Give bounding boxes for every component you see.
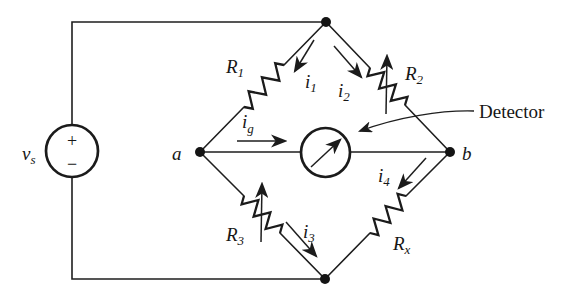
resistor-r2-label: R2 xyxy=(404,63,424,87)
current-arrow-i4 xyxy=(399,158,426,188)
wire-a-to-r3 xyxy=(200,152,244,196)
node-b-label: b xyxy=(462,143,472,164)
resistor-r1-zigzag xyxy=(244,63,284,108)
node-a xyxy=(195,147,205,157)
node-top xyxy=(321,17,331,27)
resistor-r3-label: R3 xyxy=(225,224,245,248)
voltage-source-label: vs xyxy=(22,143,36,167)
minus-sign: − xyxy=(67,154,77,174)
wire-bottom-left xyxy=(72,177,325,279)
current-ig-label: ig xyxy=(242,111,254,136)
wire-rx-to-bottom xyxy=(325,233,370,279)
detector-label: Detector xyxy=(479,101,545,122)
wire-r1-to-a xyxy=(200,107,244,152)
plus-sign: + xyxy=(67,131,77,151)
current-arrow-i2 xyxy=(334,46,361,77)
resistor-r1-label: R1 xyxy=(225,56,244,80)
resistor-r3-variable-arrow-icon xyxy=(261,184,262,242)
node-a-label: a xyxy=(172,143,182,164)
circuit-svg: + − vs R1 R2 R3 Rx i1 i2 i3 i4 ig a b De… xyxy=(0,0,567,301)
current-i2-label: i2 xyxy=(338,80,350,104)
circuit-diagram: + − vs R1 R2 R3 Rx i1 i2 i3 i4 ig a b De… xyxy=(0,0,567,301)
resistor-r2-zigzag xyxy=(368,68,408,105)
current-i1-label: i1 xyxy=(305,71,317,95)
node-b xyxy=(445,147,455,157)
resistor-r2-variable-arrow-icon xyxy=(386,56,387,114)
resistor-rx-label: Rx xyxy=(392,233,411,257)
current-i3-label: i3 xyxy=(303,221,315,245)
current-i4-label: i4 xyxy=(378,165,390,189)
detector-leader-arrow xyxy=(360,111,474,131)
resistor-rx-zigzag xyxy=(370,194,406,235)
wire-top-to-r1 xyxy=(284,22,326,65)
wire-top-left xyxy=(72,22,326,125)
node-bottom xyxy=(320,274,330,284)
